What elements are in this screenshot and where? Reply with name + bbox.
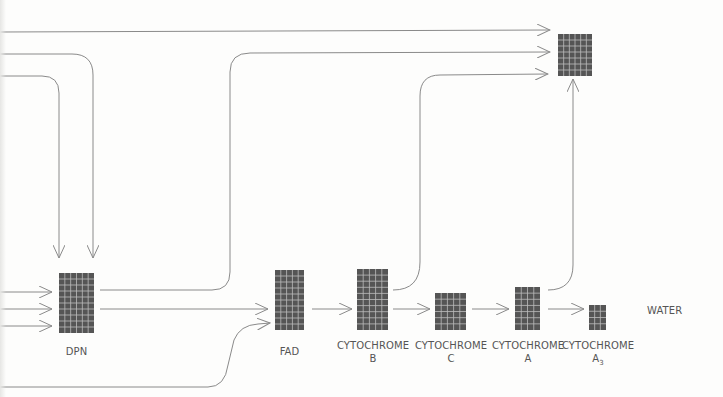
block-fad (275, 270, 304, 330)
label-water: WATER (647, 304, 682, 317)
block-cyt-b (357, 269, 388, 330)
label-cytochrome-c: CYTOCHROME C (410, 339, 492, 365)
label-cytochrome-a3-sub: A3 (557, 352, 639, 370)
flow-line-to-dpn-1 (0, 54, 93, 258)
label-cytochrome-c-sub: C (410, 352, 492, 365)
flow-line-cytb-to-top (393, 74, 548, 290)
label-cytochrome-b-sub: B (332, 352, 414, 365)
label-cytochrome-b-name: CYTOCHROME (332, 339, 414, 352)
page-edge-shadow (0, 0, 6, 397)
label-cytochrome-a3-name: CYTOCHROME (557, 339, 639, 352)
label-cytochrome-a3: CYTOCHROME A3 (557, 339, 639, 370)
flow-line-cyta-to-top (548, 79, 573, 290)
label-cytochrome-b: CYTOCHROME B (332, 339, 414, 365)
label-water-text: WATER (647, 305, 682, 316)
label-fad-text: FAD (280, 346, 300, 357)
block-dpn (59, 273, 94, 333)
label-fad: FAD (264, 345, 315, 358)
flow-line-top-1 (0, 30, 550, 32)
block-top (558, 34, 592, 76)
label-dpn: DPN (51, 345, 102, 358)
block-cyt-c (435, 293, 466, 330)
block-cyt-a3 (589, 305, 606, 330)
label-cytochrome-a3-index: 3 (599, 359, 604, 367)
flow-line-to-dpn-2 (0, 76, 59, 258)
block-cyt-a (515, 287, 540, 330)
label-dpn-text: DPN (66, 346, 88, 357)
diagram-canvas (0, 0, 723, 397)
flow-line-dpn-to-top (100, 52, 550, 290)
label-cytochrome-c-name: CYTOCHROME (410, 339, 492, 352)
flow-line-bottom-to-fad (0, 323, 270, 387)
